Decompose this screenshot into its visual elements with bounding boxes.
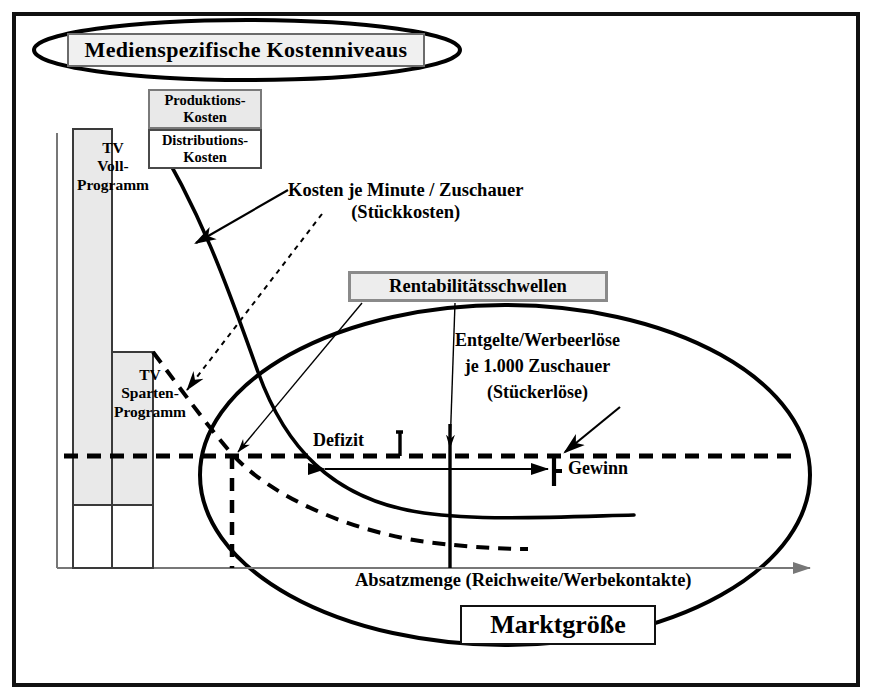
deficit-label: Defizit xyxy=(313,430,364,451)
bar-label-full-program: TV Voll- Programm xyxy=(73,139,153,194)
bar-niche-program-lower xyxy=(112,505,153,568)
title-box: Medienspezifische Kostenniveaus xyxy=(67,33,425,67)
bar-label-niche-program: TV Sparten- Programm xyxy=(104,366,196,421)
market-size-box: Marktgröße xyxy=(460,605,656,645)
unit-revenue-annotation: Entgelte/Werbeerlöse je 1.000 Zuschauer … xyxy=(455,327,620,405)
distribution-costs-box: Distributions- Kosten xyxy=(148,129,262,169)
leader-unit-cost xyxy=(196,190,288,243)
profit-label: Gewinn xyxy=(568,458,628,479)
unit-costs-annotation: Kosten je Minute / Zuschauer (Stückkoste… xyxy=(288,180,523,224)
profit-bracket xyxy=(554,456,562,486)
bar-full-program-lower xyxy=(73,505,112,568)
production-costs-box: Produktions- Kosten xyxy=(148,89,262,129)
diagram-canvas: Medienspezifische Kostenniveaus Produkti… xyxy=(0,0,873,698)
deficit-bracket xyxy=(396,432,403,456)
diagram-vector-layer xyxy=(0,0,873,698)
leader-unit-revenue xyxy=(565,407,620,452)
break-even-box: Rentabilitätsschwellen xyxy=(348,271,608,302)
x-axis-label: Absatzmenge (Reichweite/Werbekontakte) xyxy=(355,570,692,592)
